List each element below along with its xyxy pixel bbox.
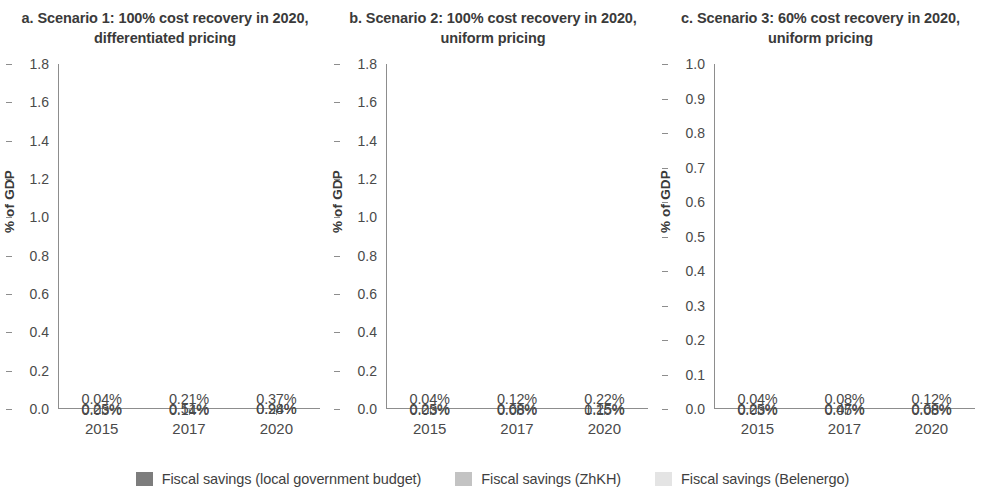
x-axis-category-label: 2017 <box>500 420 533 437</box>
y-tick-label: 1.4 <box>340 133 386 149</box>
bar-segment-value-label: 0.04% <box>82 391 122 407</box>
chart-panel-c: c. Scenario 3: 60% cost recovery in 2020… <box>656 0 985 452</box>
panel-title-c: c. Scenario 3: 60% cost recovery in 2020… <box>656 0 985 48</box>
x-axis-category-label: 2015 <box>741 420 774 437</box>
y-tick-mark <box>334 371 340 372</box>
y-tick-label: 0.4 <box>340 324 386 340</box>
bars-container-c: 0.25%0.03%0.04%20150.47%0.05%0.08%20170.… <box>714 64 975 409</box>
y-tick-mark <box>662 409 668 410</box>
y-tick-label: 1.4 <box>12 133 58 149</box>
bar-segment-value-label: 0.04% <box>737 391 777 407</box>
legend-item[interactable]: Fiscal savings (ZhKH) <box>455 471 621 487</box>
legend-swatch-icon <box>136 472 153 486</box>
y-tick-mark <box>334 217 340 218</box>
x-axis-category-label: 2020 <box>260 420 293 437</box>
x-axis-category-label: 2015 <box>413 420 446 437</box>
legend-swatch-icon <box>655 472 672 486</box>
bars-container-a: 0.25%0.03%0.04%20150.51%0.14%0.21%20170.… <box>58 64 320 409</box>
x-axis-category-label: 2017 <box>172 420 205 437</box>
y-tick-label: 0.6 <box>340 286 386 302</box>
x-axis-category-label: 2020 <box>915 420 948 437</box>
y-tick-mark <box>662 202 668 203</box>
chart-panel-a: a. Scenario 1: 100% cost recovery in 202… <box>0 0 330 452</box>
y-tick-mark <box>6 294 12 295</box>
legend-swatch-icon <box>455 472 472 486</box>
y-tick-label: 1.2 <box>12 171 58 187</box>
y-tick-mark <box>662 64 668 65</box>
y-tick-label: 0.0 <box>340 401 386 417</box>
bar-segment-value-label: 0.22% <box>584 391 624 407</box>
bar-segment-value-label: 0.21% <box>169 391 209 407</box>
y-tick-mark <box>662 133 668 134</box>
y-tick-mark <box>662 271 668 272</box>
y-tick-label: 0.7 <box>668 160 714 176</box>
legend-item[interactable]: Fiscal savings (local government budget) <box>136 471 422 487</box>
y-tick-label: 0.5 <box>668 229 714 245</box>
y-tick-label: 0.4 <box>12 324 58 340</box>
y-tick-mark <box>6 371 12 372</box>
y-tick-mark <box>334 102 340 103</box>
y-tick-mark <box>6 409 12 410</box>
panel-title-b: b. Scenario 2: 100% cost recovery in 202… <box>328 0 658 48</box>
y-tick-mark <box>662 306 668 307</box>
y-tick-mark <box>6 102 12 103</box>
y-tick-label: 1.0 <box>668 56 714 72</box>
y-tick-mark <box>334 409 340 410</box>
y-tick-label: 0.8 <box>12 248 58 264</box>
y-tick-mark <box>662 99 668 100</box>
y-tick-mark <box>662 375 668 376</box>
y-tick-mark <box>6 217 12 218</box>
y-tick-mark <box>662 340 668 341</box>
bar-segment-value-label: 0.37% <box>256 391 296 407</box>
plot-area-a: % of GDP 1.81.61.41.21.00.80.60.40.20.0 … <box>0 60 330 452</box>
bar-segment-value-label: 0.12% <box>911 391 951 407</box>
y-tick-mark <box>334 179 340 180</box>
stacked-bar-chart-figure: a. Scenario 1: 100% cost recovery in 202… <box>0 0 985 491</box>
y-tick-mark <box>6 141 12 142</box>
y-tick-label: 0.1 <box>668 367 714 383</box>
y-tick-label: 0.6 <box>668 194 714 210</box>
y-tick-mark <box>334 141 340 142</box>
y-tick-label: 0.8 <box>668 125 714 141</box>
y-tick-label: 1.2 <box>340 171 386 187</box>
y-tick-label: 1.0 <box>12 209 58 225</box>
legend-item[interactable]: Fiscal savings (Belenergo) <box>655 471 849 487</box>
plot-area-b: % of GDP 1.81.61.41.21.00.80.60.40.20.0 … <box>328 60 658 452</box>
bar-segment-value-label: 0.04% <box>410 391 450 407</box>
y-tick-label: 0.2 <box>340 363 386 379</box>
chart-panel-b: b. Scenario 2: 100% cost recovery in 202… <box>328 0 658 452</box>
y-tick-mark <box>334 64 340 65</box>
panel-title-a: a. Scenario 1: 100% cost recovery in 202… <box>0 0 330 48</box>
y-tick-label: 0.0 <box>668 401 714 417</box>
axis-area-c: 1.00.90.80.70.60.50.40.30.20.10.0 0.25%0… <box>714 64 975 409</box>
y-tick-label: 0.0 <box>12 401 58 417</box>
bars-container-b: 0.25%0.03%0.04%20150.68%0.08%0.12%20171.… <box>386 64 648 409</box>
legend-label: Fiscal savings (ZhKH) <box>481 471 621 487</box>
y-tick-label: 1.0 <box>340 209 386 225</box>
y-tick-label: 0.8 <box>340 248 386 264</box>
x-axis-category-label: 2017 <box>828 420 861 437</box>
y-tick-label: 1.6 <box>12 94 58 110</box>
legend-label: Fiscal savings (local government budget) <box>162 471 422 487</box>
y-tick-label: 1.8 <box>12 56 58 72</box>
y-tick-mark <box>334 256 340 257</box>
legend-label: Fiscal savings (Belenergo) <box>681 471 849 487</box>
y-tick-label: 0.6 <box>12 286 58 302</box>
plot-area-c: % of GDP 1.00.90.80.70.60.50.40.30.20.10… <box>656 60 985 452</box>
y-tick-mark <box>6 332 12 333</box>
bar-segment-value-label: 0.08% <box>824 391 864 407</box>
bar-segment-value-label: 0.12% <box>497 391 537 407</box>
y-tick-mark <box>662 168 668 169</box>
y-tick-label: 1.6 <box>340 94 386 110</box>
y-tick-label: 0.9 <box>668 91 714 107</box>
axis-area-b: 1.81.61.41.21.00.80.60.40.20.0 0.25%0.03… <box>386 64 648 409</box>
y-tick-mark <box>6 64 12 65</box>
y-tick-mark <box>6 256 12 257</box>
y-tick-mark <box>334 332 340 333</box>
y-tick-mark <box>334 294 340 295</box>
y-tick-mark <box>6 179 12 180</box>
y-tick-label: 0.2 <box>668 332 714 348</box>
y-tick-label: 0.2 <box>12 363 58 379</box>
x-axis-category-label: 2015 <box>85 420 118 437</box>
y-tick-label: 0.4 <box>668 263 714 279</box>
